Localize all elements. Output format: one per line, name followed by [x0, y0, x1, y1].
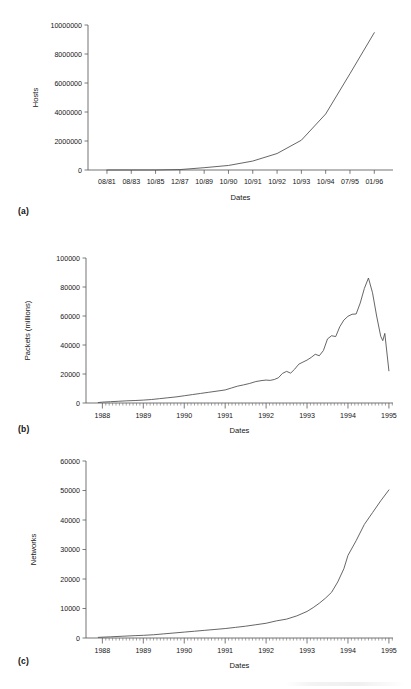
y-tick-label: 60000 — [60, 458, 80, 466]
x-axis-title: Dates — [230, 426, 250, 435]
x-axis-title: Dates — [230, 661, 250, 670]
x-tick-label: 12/87 — [171, 178, 189, 186]
y-tick-label: 20000 — [60, 576, 80, 584]
x-tick-label: 10/93 — [292, 178, 310, 186]
y-tick-label: 20000 — [60, 371, 80, 379]
x-tick-label: 10/91 — [244, 178, 262, 186]
y-tick-label: 0 — [76, 635, 80, 643]
x-tick-label: 1989 — [135, 412, 151, 420]
y-tick-label: 10000000 — [50, 22, 82, 30]
y-tick-label: 8000000 — [54, 51, 82, 59]
data-series-line — [98, 278, 389, 403]
x-tick-label: 10/92 — [268, 178, 286, 186]
y-tick-label: 6000000 — [54, 80, 82, 88]
y-tick-label: 100000 — [56, 255, 80, 263]
y-tick-label: 40000 — [60, 342, 80, 350]
chart-packets-vs-dates: 020000400006000080000100000Packets (mill… — [0, 228, 411, 456]
x-tick-label: 10/89 — [195, 178, 213, 186]
x-axis-title: Dates — [231, 193, 251, 202]
x-tick-label: 1993 — [299, 412, 315, 420]
figure-panel-b: (b) 020000400006000080000100000Packets (… — [0, 228, 411, 456]
y-tick-label: 2000000 — [54, 138, 82, 146]
x-tick-label: 1991 — [217, 647, 233, 655]
chart-networks-vs-dates: 0100002000030000400005000060000Networks1… — [0, 456, 411, 689]
x-tick-label: 1995 — [381, 647, 397, 655]
chart-hosts-vs-dates: 0200000040000006000000800000010000000Hos… — [0, 0, 411, 228]
y-tick-label: 50000 — [60, 487, 80, 495]
y-tick-label: 0 — [78, 167, 82, 175]
x-tick-label: 1992 — [258, 647, 274, 655]
x-tick-label: 1993 — [299, 647, 315, 655]
x-tick-label: 10/85 — [147, 178, 165, 186]
y-tick-label: 40000 — [60, 517, 80, 525]
y-axis-title: Packets (millions) — [23, 300, 32, 360]
x-tick-label: 1994 — [340, 412, 356, 420]
figure-panel-c: (c) 0100002000030000400005000060000Netwo… — [0, 456, 411, 689]
x-tick-label: 1992 — [258, 412, 274, 420]
x-tick-label: 10/90 — [220, 178, 238, 186]
x-tick-label: 1990 — [176, 412, 192, 420]
x-tick-label: 1994 — [340, 647, 356, 655]
x-tick-label: 1990 — [176, 647, 192, 655]
y-tick-label: 30000 — [60, 546, 80, 554]
y-tick-label: 4000000 — [54, 109, 82, 117]
x-tick-label: 10/94 — [317, 178, 335, 186]
scan-artifact — [285, 682, 405, 686]
x-tick-label: 1988 — [94, 647, 110, 655]
x-tick-label: 1989 — [135, 647, 151, 655]
x-tick-label: 08/83 — [122, 178, 140, 186]
y-axis-title: Hosts — [31, 88, 40, 108]
y-tick-label: 0 — [76, 400, 80, 408]
x-tick-label: 1991 — [217, 412, 233, 420]
y-tick-label: 60000 — [60, 313, 80, 321]
data-series-line — [98, 490, 389, 637]
data-series-line — [107, 33, 374, 170]
x-tick-label: 08/81 — [98, 178, 116, 186]
y-tick-label: 10000 — [60, 605, 80, 613]
x-tick-label: 07/95 — [341, 178, 359, 186]
y-tick-label: 80000 — [60, 284, 80, 292]
y-axis-title: Networks — [29, 533, 38, 565]
x-tick-label: 1988 — [94, 412, 110, 420]
x-tick-label: 1995 — [381, 412, 397, 420]
x-tick-label: 01/96 — [365, 178, 383, 186]
figure-panel-a: (a) 020000004000000600000080000001000000… — [0, 0, 411, 228]
